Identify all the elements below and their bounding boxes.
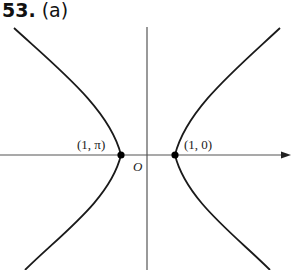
right-vertex-label: (1, 0) <box>184 137 212 152</box>
origin-label: O <box>133 159 143 174</box>
left-vertex-point <box>117 151 124 158</box>
left-vertex-label: (1, π) <box>77 137 105 152</box>
right-vertex-point <box>171 151 178 158</box>
hyperbola-diagram: (1, π) (1, 0) O <box>0 0 291 270</box>
axis-arrowhead-icon <box>281 152 291 159</box>
